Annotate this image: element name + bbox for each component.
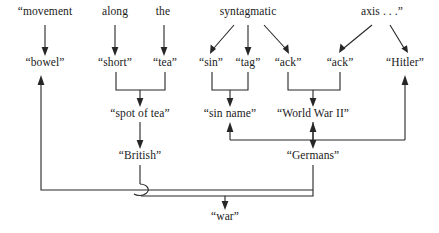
node-british: “British” xyxy=(119,149,161,162)
node-bowel: “bowel” xyxy=(25,56,64,69)
node-war: “war” xyxy=(211,210,239,223)
edge-british-germans-to-war xyxy=(134,165,313,210)
node-axis: axis . . .” xyxy=(361,5,403,18)
node-sin-name: “sin name” xyxy=(204,107,256,120)
node-world-war-ii: “World War II” xyxy=(277,107,349,120)
node-ack-1: “ack” xyxy=(275,56,302,69)
edge-ack-ack-to-world-war-ii xyxy=(288,72,340,107)
node-movement: “movement xyxy=(18,5,73,18)
node-sin: “sin” xyxy=(199,56,223,69)
edge-hitler-routed-up-arrow xyxy=(402,75,409,140)
edge-movement-to-bowel xyxy=(42,25,49,56)
edge-syntagmatic-to-ack1 xyxy=(264,25,289,54)
edge-war-bus-to-bowel xyxy=(38,75,313,190)
node-spot-of-tea: “spot of tea” xyxy=(110,107,169,120)
edge-axis-to-hitler xyxy=(390,25,408,53)
diagram-canvas: “movement along the syntagmatic axis . .… xyxy=(0,0,439,233)
edge-the-to-tea xyxy=(161,25,168,56)
node-germans: “Germans” xyxy=(287,149,340,162)
node-ack-2: “ack” xyxy=(327,56,354,69)
node-syntagmatic: syntagmatic xyxy=(220,5,277,18)
node-tag: “tag” xyxy=(236,56,261,69)
node-along: along xyxy=(102,5,128,18)
edge-axis-to-ack2 xyxy=(339,25,372,53)
edge-along-to-short xyxy=(112,25,119,56)
edge-spot-of-tea-to-british xyxy=(137,122,144,149)
node-the: the xyxy=(156,5,170,18)
edge-syntagmatic-to-sin xyxy=(210,25,234,54)
node-tea: “tea” xyxy=(153,56,177,69)
node-short: “short” xyxy=(98,56,132,69)
edge-hitler-horizontal-bus xyxy=(227,122,405,140)
edge-sin-tag-to-sin-name xyxy=(212,72,248,107)
edge-syntagmatic-to-tag xyxy=(245,25,252,56)
edge-short-tea-to-spot-of-tea xyxy=(116,72,165,107)
node-hitler: “Hitler” xyxy=(386,56,424,69)
